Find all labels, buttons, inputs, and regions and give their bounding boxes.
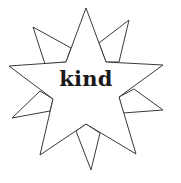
back-point-top-left xyxy=(33,27,71,64)
back-point-bottom xyxy=(76,124,100,170)
star-word: kind xyxy=(0,68,172,90)
star-figure: kind xyxy=(0,0,181,183)
back-point-left xyxy=(12,91,53,118)
star-outline-icon xyxy=(0,0,181,183)
